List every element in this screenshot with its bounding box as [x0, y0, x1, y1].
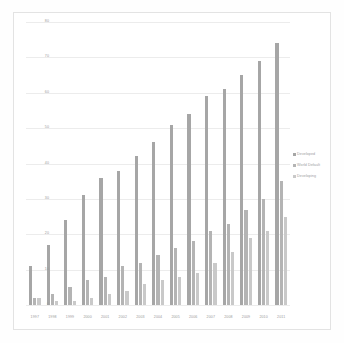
gridline: [26, 199, 290, 200]
bar: [192, 241, 195, 305]
chart-figure: 01020304050607080 1997199819992000200120…: [0, 0, 344, 343]
bar: [55, 301, 58, 305]
gridline: [26, 305, 290, 306]
bar: [135, 156, 138, 305]
legend-label: World Default: [297, 164, 320, 168]
bar: [275, 43, 278, 305]
bar: [125, 291, 128, 305]
gridline: [26, 128, 290, 129]
bar: [170, 125, 173, 305]
plot-area: [26, 22, 290, 305]
bar: [280, 181, 283, 305]
chart-legend: DevelopedWorld DefaultDeveloping: [293, 149, 339, 182]
bar: [108, 294, 111, 305]
bar: [205, 96, 208, 305]
bar: [86, 280, 89, 305]
y-axis-tick-label: 50: [29, 126, 49, 130]
bar: [262, 199, 265, 305]
y-axis-tick-label: 20: [29, 232, 49, 236]
bar: [68, 287, 71, 305]
bar: [178, 277, 181, 305]
bar: [143, 284, 146, 305]
bar: [47, 245, 50, 305]
bar: [231, 252, 234, 305]
y-axis-tick-label: 70: [29, 55, 49, 59]
gridline: [26, 22, 290, 23]
bar: [284, 217, 287, 305]
bar: [29, 266, 32, 305]
legend-item[interactable]: Developed: [293, 149, 339, 160]
y-axis-tick-label: 10: [29, 268, 49, 272]
bar: [64, 220, 67, 305]
bar: [51, 294, 54, 305]
y-axis-tick-label: 60: [29, 91, 49, 95]
legend-label: Developing: [297, 175, 316, 179]
y-axis-tick-label: 0: [29, 303, 49, 307]
legend-swatch-icon: [293, 175, 296, 178]
legend-item[interactable]: World Default: [293, 160, 339, 171]
y-axis-tick-label: 40: [29, 162, 49, 166]
bar: [139, 263, 142, 305]
bar: [196, 273, 199, 305]
bar: [161, 280, 164, 305]
bar: [249, 238, 252, 305]
gridline: [26, 57, 290, 58]
bar: [266, 231, 269, 305]
bar: [121, 266, 124, 305]
bar: [99, 178, 102, 305]
gridline: [26, 93, 290, 94]
y-axis-tick-label: 30: [29, 197, 49, 201]
bar: [213, 263, 216, 305]
bar: [90, 298, 93, 305]
legend-item[interactable]: Developing: [293, 171, 339, 182]
bar: [117, 171, 120, 305]
x-axis-tick-label: 2011: [271, 316, 291, 320]
bar: [156, 255, 159, 305]
bar: [73, 301, 76, 305]
bar: [258, 61, 261, 305]
bar: [227, 224, 230, 305]
y-axis-tick-label: 80: [29, 20, 49, 24]
legend-label: Developed: [297, 153, 315, 157]
bar: [244, 210, 247, 306]
bar: [223, 89, 226, 305]
bar: [104, 277, 107, 305]
bar: [209, 231, 212, 305]
gridline: [26, 164, 290, 165]
legend-swatch-icon: [293, 164, 296, 167]
bar: [82, 195, 85, 305]
bar: [174, 248, 177, 305]
bar: [187, 114, 190, 305]
legend-swatch-icon: [293, 153, 296, 156]
bar: [240, 75, 243, 305]
bar: [152, 142, 155, 305]
